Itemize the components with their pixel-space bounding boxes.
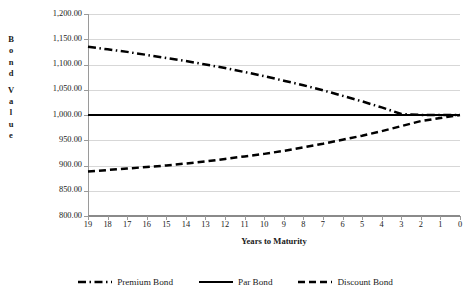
x-axis-tick-label: 3	[399, 220, 403, 229]
legend-label: Par Bond	[238, 277, 272, 287]
x-axis-tick-label: 2	[419, 220, 423, 229]
y-axis-title-letter: n	[3, 57, 19, 68]
y-axis-title-letter: V	[3, 85, 19, 96]
y-axis-title-letter: l	[3, 107, 19, 118]
y-axis-tick-label: 1,100.00	[28, 59, 82, 68]
legend-item[interactable]: Premium Bond	[78, 277, 173, 287]
x-axis-tick-label: 14	[182, 220, 190, 229]
y-axis-tick-label: 1,000.00	[28, 110, 82, 119]
x-axis-tick-label: 9	[282, 220, 286, 229]
legend-label: Premium Bond	[117, 277, 173, 287]
bond-value-chart: Bond Value Over Time BondValue 1,200.001…	[0, 0, 471, 301]
y-axis-title-letter: d	[3, 68, 19, 79]
legend-item[interactable]: Discount Bond	[298, 277, 392, 287]
chart-legend: Premium BondPar BondDiscount Bond	[0, 277, 471, 287]
gridline	[88, 216, 460, 217]
x-axis-tick-label: 11	[241, 220, 249, 229]
x-axis-tick-label: 4	[380, 220, 384, 229]
x-axis-tick-label: 1	[438, 220, 442, 229]
legend-swatch-icon	[78, 277, 112, 287]
x-axis-tick-label: 12	[221, 220, 229, 229]
legend-item[interactable]: Par Bond	[199, 277, 272, 287]
x-axis-tick-label: 5	[360, 220, 364, 229]
y-axis-title-letter: B	[3, 34, 19, 45]
x-axis-tick-label: 6	[340, 220, 344, 229]
y-axis-title-letter: u	[3, 119, 19, 130]
x-axis-tick-label: 10	[260, 220, 268, 229]
y-axis-title: BondValue	[3, 34, 19, 142]
y-axis-tick-label: 1,200.00	[28, 9, 82, 18]
x-axis-tick-label: 13	[201, 220, 209, 229]
y-axis-tick-labels: 1,200.001,150.001,100.001,050.001,000.00…	[24, 0, 82, 230]
legend-label: Discount Bond	[337, 277, 392, 287]
legend-swatch-icon	[199, 277, 233, 287]
y-axis-tick-label: 850.00	[28, 185, 82, 194]
y-axis-tick-label: 800.00	[28, 211, 82, 220]
plot-area	[88, 14, 460, 216]
x-axis-tick-label: 17	[123, 220, 131, 229]
y-axis-tick-label: 900.00	[28, 160, 82, 169]
x-axis-tick-label: 8	[301, 220, 305, 229]
x-axis-title: Years to Maturity	[88, 236, 460, 246]
series-lines	[88, 14, 460, 216]
series-line	[88, 115, 460, 172]
y-axis-title-letter: a	[3, 96, 19, 107]
y-axis-tick-label: 1,150.00	[28, 34, 82, 43]
x-axis-tick-label: 16	[143, 220, 151, 229]
y-axis-tick-label: 950.00	[28, 135, 82, 144]
y-axis-title-letter: o	[3, 45, 19, 56]
x-axis-tick-labels: 191817161514131211109876543210	[88, 220, 460, 234]
x-axis-tick-label: 15	[162, 220, 170, 229]
legend-swatch-icon	[298, 277, 332, 287]
x-axis-tick-label: 0	[458, 220, 462, 229]
y-axis-tick-label: 1,050.00	[28, 84, 82, 93]
x-axis-tick-label: 19	[84, 220, 92, 229]
x-axis-tick-label: 18	[103, 220, 111, 229]
series-line	[88, 47, 460, 115]
x-axis-tick-label: 7	[321, 220, 325, 229]
y-axis-title-letter: e	[3, 130, 19, 141]
